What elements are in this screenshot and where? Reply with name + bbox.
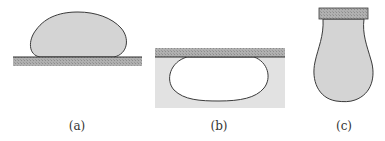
pendant-drop	[314, 19, 373, 102]
panel-a	[13, 12, 142, 66]
panel-c	[314, 8, 373, 102]
panel-c-label: (c)	[336, 119, 352, 133]
captive-bubble	[170, 57, 268, 101]
panel-b-label: (b)	[210, 119, 227, 133]
capillary-tip	[319, 8, 368, 19]
substrate-a	[13, 57, 142, 66]
panel-b	[155, 48, 285, 108]
substrate-b	[155, 48, 285, 57]
diagram-canvas	[0, 0, 385, 141]
panel-a-label: (a)	[69, 119, 86, 133]
sessile-drop	[30, 12, 126, 57]
